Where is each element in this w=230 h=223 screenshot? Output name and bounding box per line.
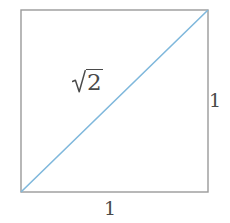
geometry-figure: 2 1 1 [0,0,230,223]
diagonal-length-label: 2 [72,68,103,94]
figure-canvas [0,0,230,223]
bottom-side-length-label: 1 [104,199,116,218]
radical-vinculum [86,69,103,70]
right-side-length-label: 1 [209,91,221,110]
square-root-icon [72,69,87,94]
radicand-group: 2 [86,68,103,94]
radicand-label: 2 [86,71,103,94]
square-diagonal-line [22,11,208,192]
